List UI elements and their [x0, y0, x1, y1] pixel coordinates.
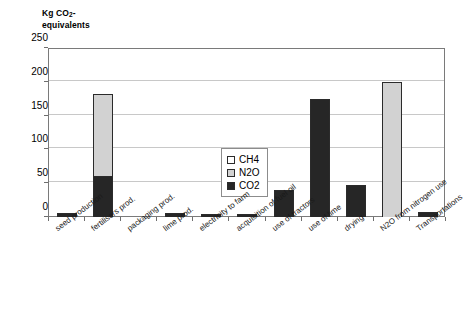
bar-segment-n2o — [382, 82, 402, 217]
legend-swatch-co2 — [227, 182, 235, 190]
x-tick-mark — [192, 217, 193, 221]
bar-slot — [121, 49, 157, 216]
bar-slot — [338, 49, 374, 216]
bar-slot — [157, 49, 193, 216]
y-tick-label-0: 0 — [4, 202, 48, 212]
y-axis: 050100150200250 — [0, 48, 48, 217]
x-tick-mark — [301, 217, 302, 221]
legend-item-n2o: N2O — [227, 166, 260, 179]
bar-drying[interactable] — [346, 185, 366, 216]
y-tick-label-50: 50 — [4, 168, 48, 178]
x-tick-mark — [445, 217, 446, 221]
x-tick-mark — [156, 217, 157, 221]
y-tick-label-100: 100 — [4, 134, 48, 144]
legend-swatch-ch4 — [227, 156, 235, 164]
chart-figure: Kg CO2- equivalents 050100150200250 CH4 … — [0, 0, 463, 311]
y-tick-label-200: 200 — [4, 67, 48, 77]
y-axis-title: Kg CO2- equivalents — [42, 8, 90, 31]
bar-segment-co2 — [346, 185, 366, 217]
legend-swatch-n2o — [227, 169, 235, 177]
bar-slot — [302, 49, 338, 216]
legend-label-co2: CO2 — [239, 181, 260, 191]
x-tick-mark — [120, 217, 121, 221]
legend-item-ch4: CH4 — [227, 153, 260, 166]
y-axis-title-line1: Kg CO2- — [42, 8, 76, 18]
bar-segment-n2o — [93, 94, 113, 178]
y-tick-label-250: 250 — [4, 33, 48, 43]
bar-slot — [374, 49, 410, 216]
x-tick-mark — [373, 217, 374, 221]
y-tick-label-150: 150 — [4, 101, 48, 111]
bar-slot — [49, 49, 85, 216]
x-tick-mark — [228, 217, 229, 221]
x-tick-mark — [265, 217, 266, 221]
x-tick-mark — [84, 217, 85, 221]
y-axis-title-line2: equivalents — [42, 20, 90, 30]
x-tick-mark — [409, 217, 410, 221]
legend-label-ch4: CH4 — [239, 155, 259, 165]
bar-n2o-from-nitrogen-use[interactable] — [382, 82, 402, 216]
x-tick-mark — [48, 217, 49, 221]
bar-slot — [85, 49, 121, 216]
x-tick-mark — [337, 217, 338, 221]
subscript-2: 2 — [69, 11, 73, 18]
legend-label-n2o: N2O — [239, 168, 260, 178]
